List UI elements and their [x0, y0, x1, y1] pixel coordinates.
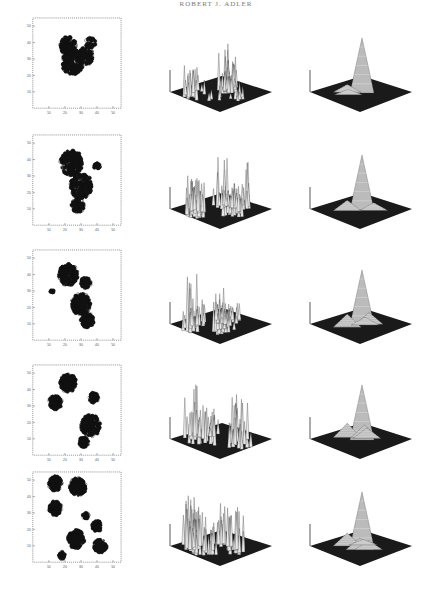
y-tick-label: 10: [27, 90, 31, 94]
y-tick-label: 20: [27, 191, 31, 195]
x-tick-label: 40: [95, 565, 99, 569]
x-tick-label: 10: [47, 228, 51, 232]
smoothed-surface-plot: [300, 484, 420, 574]
contour-cluster: [48, 500, 63, 517]
x-tick-label: 40: [95, 343, 99, 347]
raw-surface-plot: [160, 484, 280, 574]
contour-plot: 10203040501020304050: [24, 470, 124, 572]
contour-plot: 10203040501020304050: [24, 133, 124, 235]
contour-cluster: [47, 475, 63, 493]
y-tick-label: 40: [27, 41, 31, 45]
contour-cluster: [59, 373, 78, 393]
x-tick-label: 10: [47, 111, 51, 115]
contour-cluster: [92, 162, 101, 170]
y-tick-label: 40: [27, 273, 31, 277]
figure-row-2: 10203040501020304050: [0, 133, 432, 251]
y-tick-label: 50: [27, 256, 31, 260]
contour-plot: 10203040501020304050: [24, 363, 124, 465]
smoothed-surface-plot: [300, 147, 420, 237]
contour-cluster: [80, 276, 93, 289]
figure-row-3: 10203040501020304050: [0, 248, 432, 366]
running-head: ROBERT J. ADLER: [0, 0, 432, 8]
figure-row-1: 10203040501020304050: [0, 16, 432, 134]
y-tick-label: 20: [27, 421, 31, 425]
contour-cluster: [70, 197, 85, 214]
x-tick-label: 20: [63, 228, 67, 232]
raw-surface-plot: [160, 147, 280, 237]
x-tick-label: 20: [63, 111, 67, 115]
x-tick-label: 50: [111, 565, 115, 569]
x-tick-label: 50: [111, 343, 115, 347]
contour-cluster: [90, 519, 102, 532]
x-tick-label: 10: [47, 458, 51, 462]
contour-cluster: [57, 550, 66, 561]
surface-peak: [229, 397, 246, 444]
raw-surface-plot: [160, 262, 280, 352]
y-tick-label: 10: [27, 437, 31, 441]
y-tick-label: 30: [27, 289, 31, 293]
x-tick-label: 50: [111, 111, 115, 115]
y-tick-label: 20: [27, 528, 31, 532]
x-tick-label: 50: [111, 228, 115, 232]
x-tick-label: 10: [47, 565, 51, 569]
contour-cluster: [81, 511, 90, 520]
contour-cluster: [49, 289, 56, 294]
y-tick-label: 20: [27, 74, 31, 78]
contour-cluster: [93, 538, 109, 554]
x-tick-label: 20: [63, 458, 67, 462]
y-tick-label: 30: [27, 404, 31, 408]
figure-row-5: 10203040501020304050: [0, 470, 432, 588]
smoothed-surface-plot: [300, 262, 420, 352]
raw-surface-plot: [160, 377, 280, 467]
contour-plot: 10203040501020304050: [24, 16, 124, 118]
x-tick-label: 40: [95, 111, 99, 115]
y-tick-label: 30: [27, 57, 31, 61]
y-tick-label: 10: [27, 544, 31, 548]
y-tick-label: 50: [27, 141, 31, 145]
x-tick-label: 30: [79, 565, 83, 569]
contour-cluster: [88, 391, 100, 404]
y-tick-label: 50: [27, 371, 31, 375]
y-tick-label: 30: [27, 174, 31, 178]
y-tick-label: 40: [27, 388, 31, 392]
surface-peak: [234, 507, 245, 555]
contour-plot: 10203040501020304050: [24, 248, 124, 350]
surface-peak: [217, 503, 233, 546]
x-tick-label: 30: [79, 458, 83, 462]
smoothed-surface-plot: [300, 30, 420, 120]
contour-cluster: [57, 262, 79, 286]
contour-cluster: [48, 395, 63, 411]
contour-cluster: [66, 528, 85, 549]
smoothed-surface-plot: [300, 377, 420, 467]
y-tick-label: 10: [27, 207, 31, 211]
raw-surface-plot: [160, 30, 280, 120]
x-tick-label: 40: [95, 458, 99, 462]
contour-cluster: [80, 413, 102, 437]
contour-cluster: [59, 149, 84, 177]
y-tick-label: 30: [27, 511, 31, 515]
contour-cluster: [70, 292, 92, 315]
surface-peak: [207, 416, 220, 437]
figure-row-4: 10203040501020304050: [0, 363, 432, 481]
contour-cluster: [68, 476, 87, 496]
y-tick-label: 50: [27, 24, 31, 28]
x-tick-label: 20: [63, 565, 67, 569]
y-tick-label: 10: [27, 322, 31, 326]
x-tick-label: 50: [111, 458, 115, 462]
x-tick-label: 40: [95, 228, 99, 232]
x-tick-label: 30: [79, 343, 83, 347]
y-tick-label: 50: [27, 478, 31, 482]
y-tick-label: 20: [27, 306, 31, 310]
y-tick-label: 40: [27, 495, 31, 499]
contour-cluster: [79, 313, 95, 329]
contour-cluster: [69, 172, 93, 200]
contour-cluster: [59, 35, 78, 55]
x-tick-label: 30: [79, 228, 83, 232]
x-tick-label: 30: [79, 111, 83, 115]
contour-cluster: [78, 436, 90, 449]
x-tick-label: 20: [63, 343, 67, 347]
y-tick-label: 40: [27, 158, 31, 162]
surface-peak: [192, 67, 206, 94]
x-tick-label: 10: [47, 343, 51, 347]
contour-cluster: [84, 36, 96, 49]
